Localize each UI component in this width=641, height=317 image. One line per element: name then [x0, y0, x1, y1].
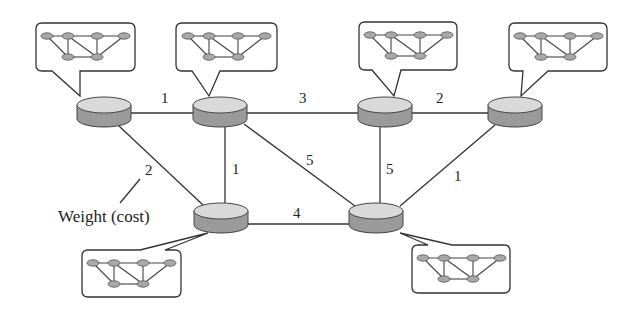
subnetwork-callout-r4: [509, 23, 607, 96]
weight-cost-annotation: Weight (cost): [58, 207, 150, 226]
edge-r4-r6: [400, 125, 495, 206]
subnetwork-callout-r2: [176, 23, 277, 96]
weight-label-r3-r6: 5: [386, 161, 394, 177]
subnetwork-callout-r3: [359, 22, 457, 96]
router-r5: [194, 203, 248, 233]
subnetwork-callout-r5: [82, 233, 208, 297]
weight-label-r2-r5: 1: [232, 161, 240, 177]
weight-label-r5-r6: 4: [293, 205, 301, 221]
router-r1: [77, 97, 131, 127]
subnetwork-callout-r6: [400, 233, 510, 293]
edge-r1-r5: [119, 126, 203, 205]
annotation-pointer: [120, 179, 140, 203]
router-r2: [193, 97, 247, 127]
weight-label-r1-r5: 2: [145, 162, 153, 178]
router-r6: [349, 203, 403, 233]
weight-label-r2-r3: 3: [299, 90, 307, 106]
router-r4: [488, 97, 542, 127]
weight-label-r4-r6: 1: [454, 168, 462, 184]
router-r3: [358, 97, 412, 127]
subnetwork-callout-r1: [36, 23, 135, 96]
edge-r2-r6: [244, 124, 355, 206]
edges: [119, 113, 495, 224]
network-diagram: 1 3 2 2 1 5 5 1 4 Weight (cost): [0, 0, 641, 317]
weight-label-r2-r6: 5: [306, 152, 314, 168]
weight-label-r3-r4: 2: [436, 90, 444, 106]
weight-label-r1-r2: 1: [161, 90, 169, 106]
